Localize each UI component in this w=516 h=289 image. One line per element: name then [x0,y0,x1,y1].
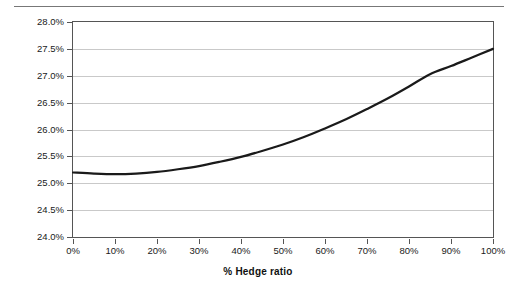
x-tick-mark [283,239,284,244]
x-tick-mark [115,239,116,244]
chart-figure: Vol % 24.0%24.5%25.0%25.5%26.0%26.5%27.0… [0,0,516,289]
cropped-caption-fragment [90,0,290,5]
y-tick-label: 27.5% [18,44,64,54]
x-tick-mark [199,239,200,244]
x-tick-mark [241,239,242,244]
y-tick-label: 25.0% [18,178,64,188]
x-tick-mark [367,239,368,244]
y-tick-label: 28.0% [18,17,64,27]
y-tick-label: 25.5% [18,151,64,161]
x-tick-label: 100% [463,246,516,256]
y-tick-label: 24.0% [18,232,64,242]
top-divider-rule [14,6,504,7]
x-axis-title: % Hedge ratio [0,266,516,277]
x-tick-mark [451,239,452,244]
y-tick-label: 27.0% [18,71,64,81]
y-tick-label: 24.5% [18,205,64,215]
series-line-portfolio-volatility [73,22,493,237]
x-tick-mark [325,239,326,244]
y-tick-label: 26.5% [18,98,64,108]
x-tick-mark [409,239,410,244]
x-tick-mark [73,239,74,244]
y-tick-label: 26.0% [18,125,64,135]
plot-area [72,21,494,238]
x-tick-mark [493,239,494,244]
x-tick-mark [157,239,158,244]
